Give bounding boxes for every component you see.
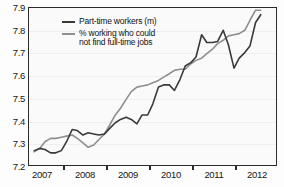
y-tick-label: 7.5 xyxy=(1,94,25,103)
plot-area: Part-time workers (m) % working who coul… xyxy=(28,7,277,166)
x-tick-label: 2009 xyxy=(108,170,148,180)
legend-label: Part-time workers (m) xyxy=(79,17,157,27)
chart-container: Part-time workers (m) % working who coul… xyxy=(0,0,284,187)
x-tick-label: 2007 xyxy=(22,170,62,180)
y-tick-label: 7.3 xyxy=(1,139,25,148)
y-tick-label: 7.8 xyxy=(1,26,25,35)
legend-swatch-icon xyxy=(62,33,75,35)
y-tick-label: 7.6 xyxy=(1,71,25,80)
x-tick-label: 2008 xyxy=(65,170,105,180)
x-tick-label: 2012 xyxy=(237,170,277,180)
legend-item-pct-not-find-full-time: % working who could not find full-time j… xyxy=(62,29,157,48)
y-tick-label: 7.9 xyxy=(1,3,25,12)
y-tick-label: 7.7 xyxy=(1,48,25,57)
x-tick-label: 2010 xyxy=(151,170,191,180)
legend-swatch-icon xyxy=(62,21,75,23)
chart-legend: Part-time workers (m) % working who coul… xyxy=(62,17,157,48)
legend-label: % working who could not find full-time j… xyxy=(79,29,155,48)
y-tick-label: 7.4 xyxy=(1,117,25,126)
x-tick-label: 2011 xyxy=(194,170,234,180)
legend-item-part-time-workers: Part-time workers (m) xyxy=(62,17,157,27)
